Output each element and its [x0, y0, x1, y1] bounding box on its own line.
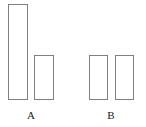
bar-chart: A B — [0, 0, 146, 127]
x-axis-label-a: A — [21, 109, 41, 121]
plot-area: A B — [0, 0, 146, 127]
bar-a-2 — [34, 55, 54, 100]
bar-b-1 — [89, 55, 108, 100]
bar-a-1 — [8, 4, 28, 100]
bar-b-2 — [115, 55, 134, 100]
x-axis-label-b: B — [101, 109, 121, 121]
